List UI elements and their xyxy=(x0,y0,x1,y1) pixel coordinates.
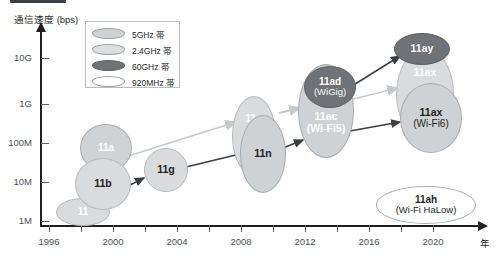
connector-11n-11ac-light xyxy=(279,108,300,113)
legend-item-5ghz: 5GHz 帯 xyxy=(92,27,165,40)
bubble-11ax-5ghz[interactable]: 11ax (Wi-Fi6) xyxy=(400,83,462,153)
bubble-sublabel: (Wi-Fi HaLow) xyxy=(396,205,457,216)
bubble-11g[interactable]: 11g xyxy=(144,148,188,192)
bubble-label: 11 xyxy=(78,206,89,217)
bubble-11ay[interactable]: 11ay xyxy=(394,33,450,65)
connector-11n-11ac xyxy=(283,140,303,148)
bubble-11ah[interactable]: 11ah (Wi-Fi HaLow) xyxy=(376,186,476,224)
bubble-sublabel: (Wi-Fi6) xyxy=(413,118,449,129)
legend-label: 5GHz 帯 xyxy=(132,28,165,40)
bubble-label: 11a xyxy=(98,142,114,153)
bubble-label: 11n xyxy=(254,148,272,160)
legend-label: 920MHz 帯 xyxy=(132,76,175,88)
legend-item-24ghz: 2.4GHz 帯 xyxy=(92,43,172,56)
bubble-label: 11ay xyxy=(411,43,434,55)
legend-label: 2.4GHz 帯 xyxy=(132,44,172,56)
legend-swatch-icon xyxy=(92,28,125,39)
bubble-label: 11b xyxy=(94,178,112,190)
legend: 5GHz 帯 2.4GHz 帯 60GHz 帯 920MHz 帯 xyxy=(85,21,180,88)
bubble-sublabel: (Wi-Fi5) xyxy=(307,123,345,135)
legend-swatch-icon xyxy=(92,44,125,55)
legend-item-920mhz: 920MHz 帯 xyxy=(92,75,175,88)
legend-swatch-icon xyxy=(92,60,125,71)
legend-swatch-icon xyxy=(92,76,125,87)
chart-canvas: 通信速度 (bps) 年 10G 1G 100M 10M 1M 1996 200… xyxy=(0,0,500,257)
legend-label: 60GHz 帯 xyxy=(132,60,170,72)
bubble-11n-5ghz[interactable]: 11n xyxy=(240,115,286,193)
bubble-label: 11g xyxy=(157,164,175,176)
connector-11ad-11ay xyxy=(352,56,400,86)
bubble-label: 11ax xyxy=(414,67,437,79)
connector-11ac-11ax xyxy=(350,122,400,131)
bubble-11b[interactable]: 11b xyxy=(75,158,131,210)
bubble-label: 11ax xyxy=(420,107,443,119)
bubble-11ad[interactable]: 11ad (WiGig) xyxy=(304,66,356,108)
connector-11ac-11ax-light xyxy=(349,88,398,100)
bubble-sublabel: (WiGig) xyxy=(314,87,346,98)
legend-item-60ghz: 60GHz 帯 xyxy=(92,59,170,72)
